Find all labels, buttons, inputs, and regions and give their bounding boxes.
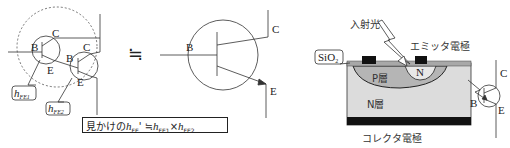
- q2-base-label: B: [66, 52, 73, 64]
- formula-sub-fe: FE: [132, 127, 139, 134]
- incident-light-label: 入射光: [350, 18, 380, 30]
- formula-prime: ': [139, 121, 142, 132]
- n-region-label: N: [416, 66, 424, 78]
- phototransistor-cross-section: [315, 20, 471, 125]
- collector-electrode-label: コレクタ電極: [362, 132, 422, 144]
- equivalent-transistor: [160, 10, 268, 118]
- formula-approx: ≒: [145, 121, 153, 132]
- q2-collector-label: C: [83, 41, 90, 53]
- n-layer-label: N層: [367, 99, 384, 110]
- q2-emitter-label: E: [77, 76, 84, 88]
- p-layer-label: P層: [372, 73, 388, 84]
- photo-emitter-label: E: [498, 104, 505, 116]
- hfe1-label: hFE1: [14, 87, 30, 100]
- equiv-collector-label: C: [272, 23, 279, 35]
- q1-base-label: B: [31, 41, 38, 53]
- sio2-label: SiO2: [318, 51, 338, 64]
- approx-equal-symbol: ≒: [128, 43, 143, 64]
- q1-collector-label: C: [52, 27, 59, 39]
- hfe2-label: hFE2: [48, 102, 64, 115]
- diagram-canvas: B C E B C E hFE1 hFE2 ≒ B C E 入射光 SiO2 エ…: [0, 0, 510, 148]
- equiv-base-label: B: [186, 41, 193, 53]
- formula-sub2: FE2: [184, 127, 195, 134]
- formula-sub1: FE1: [159, 127, 170, 134]
- formula-times: ×: [170, 121, 178, 132]
- photo-collector-label: C: [500, 67, 507, 79]
- formula-prefix: 見かけの: [86, 121, 126, 132]
- photo-base-label: B: [470, 97, 477, 109]
- apparent-hfe-formula: 見かけのhFE' ≒hFE1×hFE2: [82, 117, 228, 133]
- emitter-electrode-label: エミッタ電極: [410, 40, 470, 52]
- equiv-emitter-label: E: [270, 85, 277, 97]
- q1-emitter-label: E: [47, 64, 54, 76]
